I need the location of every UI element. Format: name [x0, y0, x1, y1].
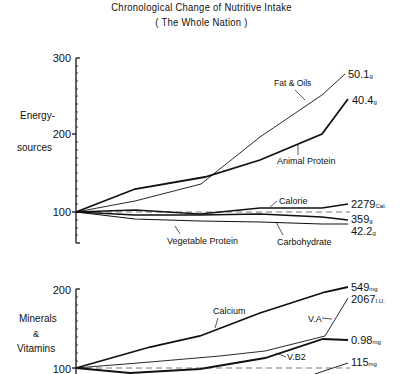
svg-text:40.4g: 40.4g [352, 94, 377, 106]
y-tick-200: 200 [53, 128, 71, 140]
series-vitamin-a [76, 298, 348, 368]
svg-text:359g: 359g [351, 213, 373, 225]
label-vegetable-protein: Vegetable Protein [167, 236, 238, 246]
energy-label-1: Energy- [20, 110, 55, 121]
y-tick-100-lower: 100 [53, 363, 71, 374]
y-tick-200-lower: 200 [53, 284, 71, 296]
svg-text:115mg: 115mg [351, 356, 377, 368]
series-fat-oils [76, 74, 345, 212]
svg-text:42.2g: 42.2g [351, 225, 376, 237]
minerals-label-2: & [33, 329, 39, 339]
label-calcium: Calcium [213, 306, 246, 316]
svg-text:2067I.U.: 2067I.U. [351, 293, 385, 305]
svg-text:50.1g: 50.1g [348, 68, 373, 80]
label-carbohydrate: Carbohydrate [277, 237, 332, 247]
y-tick-100: 100 [53, 206, 71, 218]
minerals-label-3: Vitamins [17, 343, 55, 354]
minerals-label-1: Minerals [19, 313, 57, 324]
label-fat-oils: Fat & Oils [274, 78, 311, 88]
label-calorie: Calorie [279, 196, 308, 206]
svg-text:2279Cal.: 2279Cal. [351, 198, 386, 210]
label-vitamin-b2: V.B2 [287, 352, 306, 362]
series-calcium [76, 287, 348, 368]
minerals-axis [72, 289, 80, 374]
minerals-end-labels: 549mg 2067I.U. 0.98mg 115mg [351, 281, 385, 368]
label-animal-protein: Animal Protein [277, 156, 336, 166]
chart-canvas: 300 200 100 Energy- sources 50.1g 40.4g … [0, 0, 403, 374]
energy-axis [72, 58, 80, 243]
label-vitamin-a: V.A [308, 314, 322, 324]
y-tick-300: 300 [53, 52, 71, 64]
energy-label-2: sources [17, 142, 52, 153]
series-115mg [315, 363, 348, 374]
svg-text:549mg: 549mg [351, 281, 378, 293]
energy-end-labels: 50.1g 40.4g 2279Cal. 359g 42.2g [348, 68, 386, 237]
svg-text:0.98mg: 0.98mg [351, 334, 381, 346]
